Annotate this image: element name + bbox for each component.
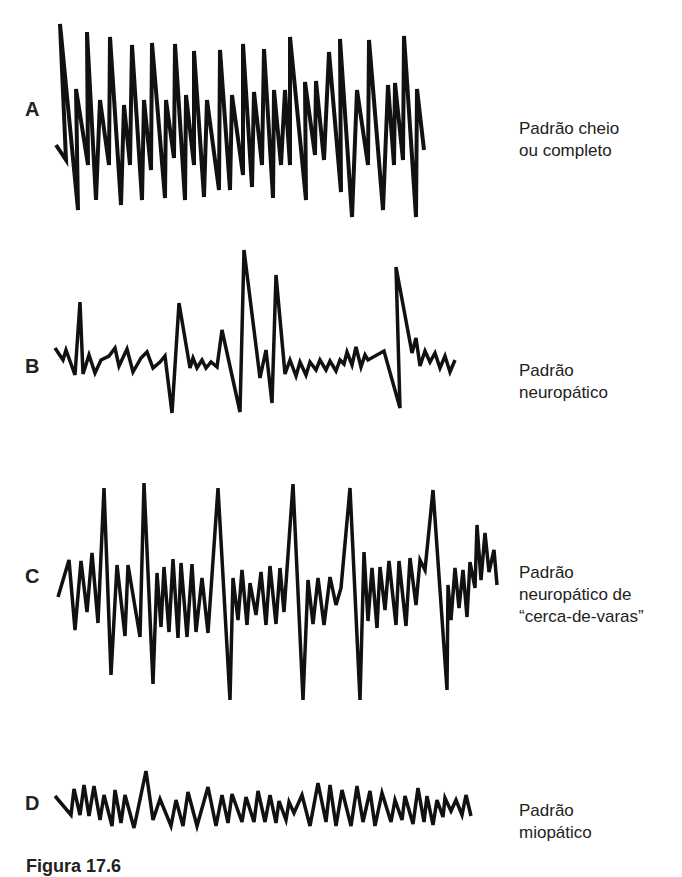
panel-description-d: Padrão miopático	[519, 800, 592, 844]
figure-caption: Figura 17.6	[26, 856, 121, 877]
